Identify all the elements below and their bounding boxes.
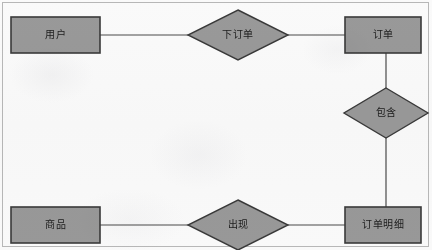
entity-box-order-detail[interactable] [345,207,421,243]
relationship-diamond-contains[interactable] [344,88,428,138]
relationship-diamond-place-order[interactable] [188,10,288,60]
er-diagram-canvas: 用户 订单 商品 订单明细 下订单 包含 出现 [0,0,432,250]
relationship-diamond-appears[interactable] [188,200,288,250]
er-diagram-graphics [0,0,432,250]
connector-group [100,35,386,225]
entity-box-user[interactable] [11,17,100,53]
entity-box-order[interactable] [345,17,421,53]
entity-box-product[interactable] [11,207,100,243]
entity-group [11,17,421,243]
